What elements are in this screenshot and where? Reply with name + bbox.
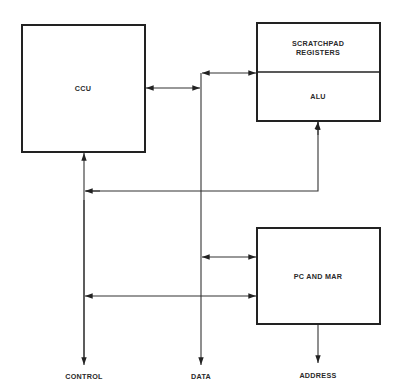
data-bus: DATA [191, 73, 211, 381]
cpu-block-diagram: CCU SCRATCHPAD REGISTERS ALU PC AND MAR … [0, 0, 401, 392]
data-bus-label: DATA [191, 372, 211, 381]
scratchpad-label-line2: REGISTERS [296, 48, 340, 57]
control-bus: CONTROL [65, 153, 103, 381]
address-bus: ADDRESS [299, 325, 336, 380]
control-bus-label: CONTROL [65, 372, 103, 381]
ccu-label: CCU [75, 84, 91, 93]
alu-label: ALU [310, 92, 326, 101]
pc-mar-label: PC AND MAR [294, 272, 343, 281]
scratchpad-label-line1: SCRATCHPAD [292, 39, 344, 48]
address-bus-label: ADDRESS [299, 371, 336, 380]
scratchpad-alu-block: SCRATCHPAD REGISTERS ALU [257, 23, 380, 121]
pc-mar-block: PC AND MAR [257, 228, 380, 324]
ccu-block: CCU [22, 25, 145, 152]
